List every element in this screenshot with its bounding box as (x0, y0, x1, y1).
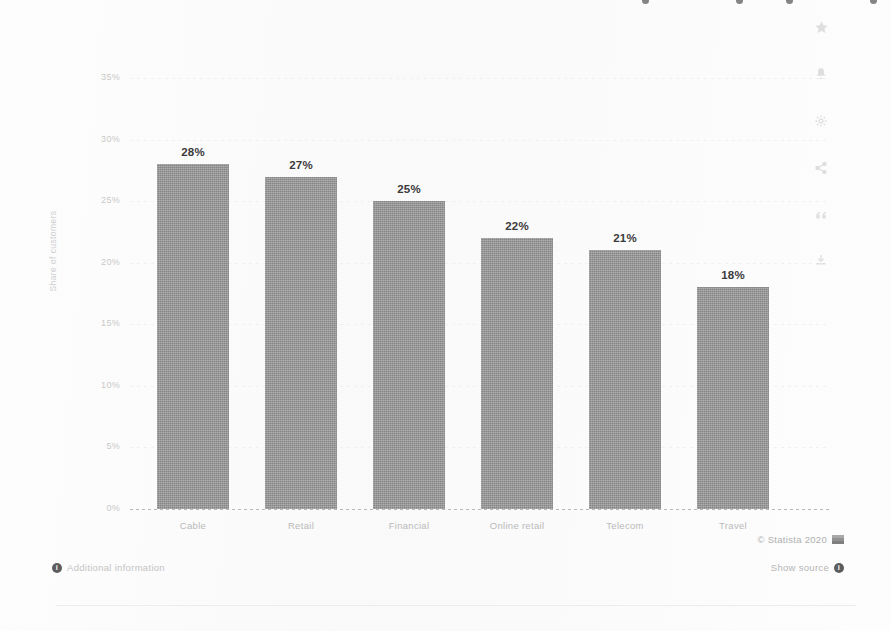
y-axis-tick-label: 10% (78, 380, 120, 390)
copyright-notice: © Statista 2020 (757, 534, 844, 545)
y-axis-tick-label: 30% (78, 134, 120, 144)
y-axis-tick-label: 0% (78, 503, 120, 513)
star-icon[interactable] (810, 16, 832, 38)
show-source-link[interactable]: Show source i (771, 562, 844, 573)
bar-group: 25% (355, 78, 463, 509)
additional-information-link[interactable]: i Additional information (52, 562, 165, 573)
additional-information-label: Additional information (67, 562, 165, 573)
show-source-label: Show source (771, 562, 829, 573)
bar-value-label: 21% (571, 232, 679, 244)
bar-group: 28% (139, 78, 247, 509)
plot-area: 28%27%25%22%21%18% (130, 78, 832, 509)
gear-icon[interactable] (810, 110, 832, 132)
bar[interactable] (481, 238, 553, 509)
bar[interactable] (265, 177, 337, 509)
screenshot-root: Share of customers 0%5%10%15%20%25%30%35… (0, 0, 891, 631)
bar[interactable] (157, 164, 229, 509)
flag-icon (832, 535, 844, 544)
bar-group: 18% (679, 78, 787, 509)
cut-off-text-above (620, 0, 882, 8)
bar[interactable] (373, 201, 445, 509)
y-axis-tick-label: 20% (78, 257, 120, 267)
bar-group: 21% (571, 78, 679, 509)
info-icon: i (52, 563, 62, 573)
y-axis-tick-label: 5% (78, 441, 120, 451)
download-icon[interactable] (810, 249, 832, 271)
card-footer: © Statista 2020 i Additional information… (26, 518, 866, 606)
info-icon: i (834, 563, 844, 573)
bar-group: 22% (463, 78, 571, 509)
bar[interactable] (697, 287, 769, 509)
action-icon-rail (806, 16, 846, 276)
y-axis-title: Share of customers (48, 186, 58, 316)
bar-value-label: 18% (679, 269, 787, 281)
y-axis-tick-label: 25% (78, 195, 120, 205)
bar-value-label: 28% (139, 146, 247, 158)
quote-icon[interactable] (810, 204, 832, 226)
bar-value-label: 22% (463, 220, 571, 232)
copyright-text: © Statista 2020 (757, 534, 827, 545)
bar-chart: Share of customers 0%5%10%15%20%25%30%35… (26, 28, 866, 518)
x-axis-line (130, 509, 832, 510)
bar-value-label: 27% (247, 159, 355, 171)
bar-value-label: 25% (355, 183, 463, 195)
statista-chart-card: Share of customers 0%5%10%15%20%25%30%35… (26, 28, 866, 606)
bar[interactable] (589, 250, 661, 509)
y-axis-tick-label: 35% (78, 72, 120, 82)
bell-icon[interactable] (810, 63, 832, 85)
y-axis-tick-label: 15% (78, 318, 120, 328)
bar-group: 27% (247, 78, 355, 509)
share-icon[interactable] (810, 157, 832, 179)
